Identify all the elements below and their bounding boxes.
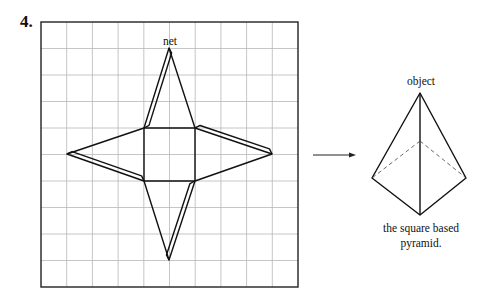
net-diagram — [0, 0, 490, 301]
arrow-icon — [313, 153, 356, 158]
caption-line-1: the square based — [370, 221, 472, 235]
pyramid-object — [372, 93, 466, 215]
object-label: object — [390, 74, 452, 88]
caption-line-2: pyramid. — [370, 236, 472, 250]
net-label: net — [150, 34, 190, 48]
